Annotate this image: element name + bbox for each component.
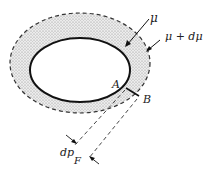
inner-surface-solid [30, 38, 130, 102]
label-point-a: A [111, 78, 120, 91]
label-point-b: B [142, 93, 151, 106]
label-dp: dp [60, 146, 74, 159]
label-dp-subscript: F [73, 155, 82, 166]
label-mu-plus-dmu: μ + dμ [165, 30, 203, 43]
label-mu: μ [150, 11, 158, 25]
diagram-canvas: μ μ + dμ A B dp F [0, 0, 212, 176]
